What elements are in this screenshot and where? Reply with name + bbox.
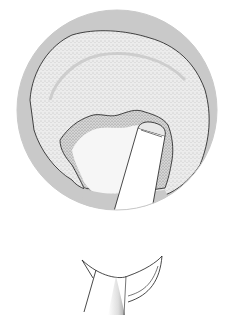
instrument-tip-detail — [82, 256, 162, 315]
endoscopic-view — [17, 10, 217, 232]
surgical-illustration — [0, 0, 233, 321]
